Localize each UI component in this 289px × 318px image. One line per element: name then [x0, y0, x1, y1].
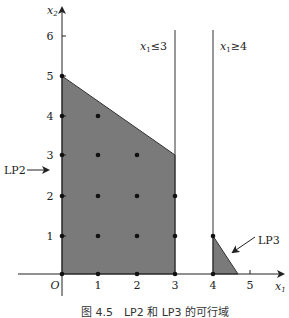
y-axis-label: x2 [47, 4, 58, 18]
lp2-region [62, 76, 175, 274]
x-tick-label-2: 2 [134, 279, 141, 292]
figure-caption: 图 4.5 LP2 和 LP3 的可行域 [81, 305, 229, 318]
y-tick-label-1: 1 [47, 230, 54, 243]
x-tick-label-4: 4 [210, 279, 217, 292]
origin-label: O [50, 279, 59, 292]
x-tick-label-3: 3 [172, 279, 179, 292]
y-tick-label-6: 6 [47, 30, 54, 43]
lp3-label: LP3 [258, 234, 280, 247]
y-tick-label-3: 3 [47, 149, 54, 162]
constraint-label-left: x1≤3 [140, 40, 167, 54]
x-tick-label-1: 1 [95, 279, 102, 292]
constraint-label-right: x1≥4 [220, 40, 247, 54]
feasible-region-figure: 1 2 3 4 5 6 O 1 2 3 4 5 x1 x2 x1≤3 x1≥4 … [0, 0, 289, 318]
y-tick-label-4: 4 [47, 110, 54, 123]
y-tick-label-2: 2 [47, 190, 54, 203]
lp2-label: LP2 [4, 164, 26, 177]
lp3-arrow [233, 237, 255, 252]
y-tick-label-5: 5 [47, 70, 54, 83]
x-axis-label: x1 [275, 280, 286, 294]
x-tick-label-5: 5 [247, 279, 254, 292]
lp3-region [213, 236, 238, 274]
